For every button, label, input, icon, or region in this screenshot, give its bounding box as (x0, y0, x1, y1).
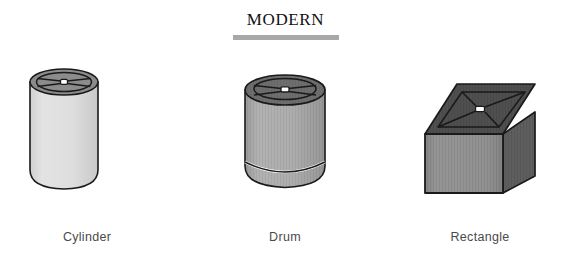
shade-caption-row: Cylinder Drum Rectangle (0, 228, 571, 258)
drum-illustration (190, 58, 380, 218)
shade-illustration-row (0, 58, 571, 218)
cylinder-spider-center-hole (61, 79, 68, 84)
rectangle-front-face-texture (425, 134, 503, 193)
shade-figure-rectangle (385, 58, 571, 218)
title-underline-rule (233, 35, 339, 40)
cylinder-illustration (0, 58, 182, 218)
rectangle-spider-center-hole (476, 106, 485, 111)
rectangle-illustration (385, 58, 571, 218)
drum-spider-center-hole (281, 87, 289, 92)
shade-caption-rectangle: Rectangle (385, 228, 571, 246)
page-title: MODERN (0, 10, 571, 30)
shade-caption-cylinder: Cylinder (0, 228, 182, 246)
cylinder-body (30, 82, 98, 189)
shade-caption-drum: Drum (190, 228, 380, 246)
title-block: MODERN (0, 10, 571, 40)
lamp-shade-styles-page: MODERN (0, 0, 571, 279)
shade-figure-cylinder (0, 58, 182, 218)
shade-figure-drum (190, 58, 380, 218)
